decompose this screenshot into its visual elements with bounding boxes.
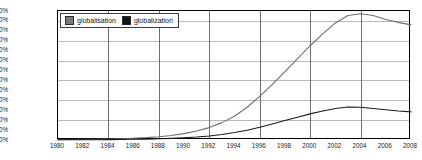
y-tick-text: 0.000800% <box>0 56 8 63</box>
x-tick-label: 1988 <box>151 142 165 150</box>
y-tick-text: 0.001000% <box>0 36 8 43</box>
x-tick-label: 1998 <box>277 142 291 150</box>
y-tick-text: 0.000000% <box>0 136 8 143</box>
x-tick-label: 2006 <box>378 142 392 150</box>
x-tick-label: 1986 <box>126 142 140 150</box>
x-tick-label: 2002 <box>327 142 341 150</box>
y-tick-text: 0.000300% <box>0 106 8 113</box>
y-tick-text: 0.001100% <box>0 26 8 33</box>
x-tick-label: 2000 <box>302 142 316 150</box>
x-tick-label: 1980 <box>50 142 64 150</box>
globalisation-swatch-icon <box>65 16 74 25</box>
y-tick-text: 0.000100% <box>0 126 8 133</box>
y-tick-text: 0.000200% <box>0 116 8 123</box>
x-tick-label: 1990 <box>176 142 190 150</box>
y-tick-text: 0.000400% <box>0 96 8 103</box>
x-tick-label: 1982 <box>75 142 89 150</box>
series-lines <box>58 11 411 140</box>
y-tick-text: 0.000600% <box>0 76 8 83</box>
legend-label-globalisation: globalisation <box>77 17 116 25</box>
x-tick-label: 2004 <box>353 142 367 150</box>
y-tick-text: 0.000900% <box>0 46 8 53</box>
y-tick-text: 0.001200% <box>0 16 8 23</box>
legend-item-globalization: globalization <box>122 16 173 25</box>
y-tick-text: 0.001300% <box>0 7 8 14</box>
x-tick-label: 1984 <box>100 142 114 150</box>
legend-item-globalisation: globalisation <box>65 16 116 25</box>
x-tick-label: 1996 <box>252 142 266 150</box>
globalization-swatch-icon <box>122 16 131 25</box>
chart-legend: globalisation globalization <box>60 13 179 28</box>
x-tick-label: 1992 <box>201 142 215 150</box>
legend-label-globalization: globalization <box>134 17 173 25</box>
plot-area <box>57 10 410 139</box>
y-tick-text: 0.000500% <box>0 86 8 93</box>
series-line-globalisation <box>58 14 411 140</box>
series-line-globalization <box>58 107 411 140</box>
y-tick-text: 0.000700% <box>0 66 8 73</box>
ngram-chart: 0.001300%0.001200%0.001100%0.001000%0.00… <box>0 0 422 160</box>
x-tick-label: 2008 <box>403 142 417 150</box>
x-tick-label: 1994 <box>226 142 240 150</box>
